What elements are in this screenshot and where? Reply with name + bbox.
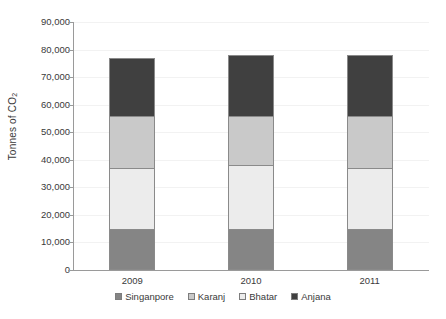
x-axis-tick-labels: 200920102011 [73,273,429,289]
y-axis-tick-label: 10,000 [41,238,70,248]
bar-segment[interactable] [347,55,393,116]
y-axis-tick-mark [68,187,73,188]
y-axis-tick-mark [68,50,73,51]
bar-segment[interactable] [109,116,155,168]
y-axis-tick-mark [68,132,73,133]
y-axis-tick-label: 20,000 [41,210,70,220]
x-axis-tick-label: 2009 [73,273,192,289]
y-axis-tick-mark [68,242,73,243]
bar-segment[interactable] [109,168,155,229]
bar-segment[interactable] [347,168,393,229]
legend-label: Karanj [198,292,225,302]
y-axis-tick-label: 60,000 [41,100,70,110]
y-axis-tick-label: 80,000 [41,45,70,55]
legend-label: Bhatar [249,292,277,302]
x-axis-tick-label: 2010 [192,273,311,289]
plot-area [73,22,429,270]
legend-label: Singanpore [125,292,174,302]
bar-group [310,22,429,270]
y-axis-tick-label: 50,000 [41,127,70,137]
x-axis-line [73,270,429,271]
legend-item[interactable]: Bhatar [239,292,277,302]
y-axis-tick-label: 70,000 [41,72,70,82]
y-axis-tick-mark [68,105,73,106]
legend-item[interactable]: Singanpore [115,292,174,302]
bar-segment[interactable] [347,116,393,168]
y-axis-tick-mark [68,270,73,271]
bar-segment[interactable] [109,229,155,270]
y-axis-tick-mark [68,160,73,161]
x-axis-tick-label: 2011 [310,273,429,289]
y-axis-title: Tonnes of CO2 [0,0,24,286]
chart-legend: SinganporeKaranjBhatarAnjana [0,292,446,302]
bar-segment[interactable] [228,116,274,166]
bar-segment[interactable] [228,165,274,228]
bar-segment[interactable] [109,58,155,116]
legend-swatch-icon [115,293,122,300]
bar-group [73,22,192,270]
bar-group [192,22,311,270]
y-axis-title-text: Tonnes of CO [7,97,18,161]
legend-label: Anjana [301,292,331,302]
legend-swatch-icon [291,293,298,300]
y-axis-tick-labels: 010,00020,00030,00040,00050,00060,00070,… [22,16,70,278]
bar-stack[interactable] [109,58,155,270]
y-axis-tick-mark [68,215,73,216]
y-axis-tick-mark [68,22,73,23]
bar-segment[interactable] [228,229,274,270]
legend-swatch-icon [188,293,195,300]
y-axis-tick-label: 90,000 [41,17,70,27]
legend-swatch-icon [239,293,246,300]
legend-item[interactable]: Karanj [188,292,225,302]
bar-stack[interactable] [347,55,393,270]
legend-item[interactable]: Anjana [291,292,331,302]
bar-stack[interactable] [228,55,274,270]
bar-segment[interactable] [228,55,274,116]
y-axis-line [73,22,74,271]
bar-groups [73,22,429,270]
y-axis-tick-label: 30,000 [41,183,70,193]
bar-segment[interactable] [347,229,393,270]
y-axis-tick-mark [68,77,73,78]
chart-figure: Tonnes of CO2 010,00020,00030,00040,0005… [0,0,446,319]
y-axis-tick-label: 40,000 [41,155,70,165]
y-axis-title-subscript: 2 [11,93,18,97]
